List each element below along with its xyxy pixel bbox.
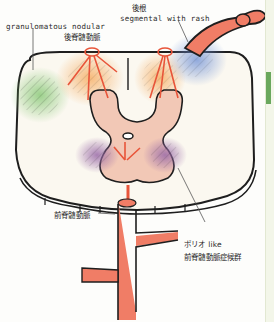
label-posterior-spinal-artery: 後脊髄動脈 [64, 31, 100, 42]
label-dorsal-root: 後根 [132, 2, 146, 13]
label-granulomatous: granulomatous nodular [6, 22, 105, 31]
label-polio-like: ポリオ like [184, 238, 222, 249]
anterior-spinal-artery [118, 200, 178, 320]
label-segmental: segmental with rash [120, 14, 210, 23]
spinal-cord-diagram [0, 0, 274, 322]
bookmark-tab [266, 72, 271, 104]
label-anterior-spinal-artery-syndrome: 前脊髄動脈症候群 [184, 251, 242, 262]
label-anterior-spinal-artery: 前脊髄動脈 [54, 209, 90, 220]
page-edge [265, 0, 274, 322]
